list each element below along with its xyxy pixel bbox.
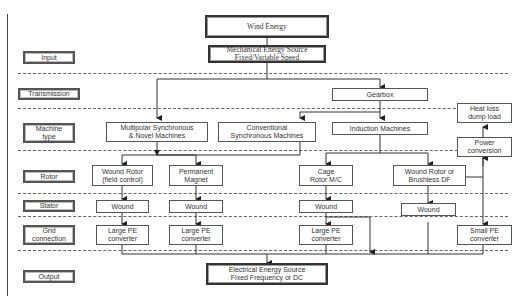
- gearbox-text: Gearbox: [367, 91, 394, 99]
- converter-line-2: converter: [181, 235, 210, 243]
- row-label-stator: Stator: [23, 200, 75, 212]
- stator-wound-3: Wound: [299, 200, 353, 213]
- multipolar-line-1: Multipolar Synchronous: [120, 124, 193, 132]
- large-pe-converter-2: Large PE converter: [169, 225, 223, 245]
- converter-line-1: Large PE: [181, 227, 210, 235]
- row-label-grid-connection: Grid connection: [23, 225, 75, 245]
- permanent-magnet-box: Permanent Magnet: [169, 165, 223, 186]
- power-conversion-line-2: conversion: [468, 147, 502, 155]
- stator-text: Wound: [111, 203, 133, 211]
- stator-wound-1: Wound: [96, 200, 149, 213]
- wound-rotor-brushless-df-box: Wound Rotor or Brushless DF: [393, 165, 466, 186]
- conventional-line-1: Conventional: [247, 124, 288, 132]
- converter-line-2: converter: [470, 235, 499, 243]
- power-conversion-line-1: Power: [475, 139, 495, 147]
- gearbox-box: Gearbox: [332, 88, 428, 101]
- cage-line-2: Rotor M/C: [310, 176, 342, 184]
- stator-wound-2: Wound: [169, 200, 223, 213]
- permanent-magnet-line-1: Permanent: [179, 168, 213, 176]
- output-line-1: Electrical Energy Source: [229, 266, 306, 274]
- conventional-line-2: Synchronous Machines: [231, 132, 304, 140]
- cage-line-1: Cage: [318, 168, 335, 176]
- converter-line-2: converter: [311, 235, 340, 243]
- row-label-text: Transmission: [28, 90, 69, 98]
- stator-text: Wound: [185, 203, 207, 211]
- source-line-2: Fixed/Variable Speed: [235, 54, 299, 62]
- wind-energy-box: Wind Energy: [205, 15, 329, 38]
- brushless-line-2: Brushless DF: [408, 176, 450, 184]
- large-pe-converter-3: Large PE converter: [299, 225, 353, 245]
- row-label-text: Stator: [40, 202, 59, 210]
- row-label-output: Output: [23, 270, 75, 283]
- electrical-energy-source-box: Electrical Energy Source Fixed Frequency…: [206, 263, 328, 285]
- heat-loss-line-2: dump load: [468, 113, 501, 121]
- converter-line-1: Small PE: [470, 227, 499, 235]
- wound-field-line-2: (field control): [102, 176, 142, 184]
- row-label-machine-type: Machine type: [23, 123, 75, 143]
- small-pe-converter: Small PE converter: [457, 225, 512, 245]
- induction-text: Induction Machines: [350, 125, 410, 133]
- row-label-text: Input: [41, 54, 57, 62]
- converter-line-1: Large PE: [311, 227, 340, 235]
- multipolar-line-2: & Novel Machines: [129, 132, 185, 140]
- row-label-rotor: Rotor: [23, 170, 75, 183]
- stator-text: Wound: [315, 203, 337, 211]
- row-label-text: Machine type: [34, 125, 64, 141]
- mechanical-energy-source-box: Mechanical Energy Source Fixed/Variable …: [208, 45, 326, 63]
- row-label-text: Rotor: [40, 173, 57, 181]
- permanent-magnet-line-2: Magnet: [184, 176, 207, 184]
- large-pe-converter-1: Large PE converter: [96, 225, 149, 245]
- wound-rotor-field-control-box: Wound Rotor (field control): [92, 165, 153, 186]
- row-label-transmission: Transmission: [18, 88, 80, 100]
- conventional-synchronous-box: Conventional Synchronous Machines: [218, 122, 316, 142]
- power-conversion-box: Power conversion: [457, 137, 512, 157]
- heat-loss-line-1: Heat loss: [470, 105, 499, 113]
- row-label-text: Output: [38, 273, 59, 281]
- output-line-2: Fixed Frequency or DC: [231, 274, 303, 282]
- wound-field-line-1: Wound Rotor: [102, 168, 143, 176]
- stator-wound-4: Wound: [401, 203, 456, 216]
- converter-line-2: converter: [108, 235, 137, 243]
- multipolar-synchronous-box: Multipolar Synchronous & Novel Machines: [106, 122, 208, 142]
- row-label-input: Input: [23, 51, 75, 64]
- converter-line-1: Large PE: [108, 227, 137, 235]
- wind-energy-text: Wind Energy: [247, 23, 287, 31]
- brushless-line-1: Wound Rotor or: [405, 168, 454, 176]
- heat-loss-dump-load-box: Heat loss dump load: [457, 103, 512, 123]
- stator-text: Wound: [417, 206, 439, 214]
- cage-rotor-box: Cage Rotor M/C: [299, 165, 353, 186]
- row-label-text: Grid connection: [29, 227, 69, 243]
- induction-machines-box: Induction Machines: [332, 122, 428, 135]
